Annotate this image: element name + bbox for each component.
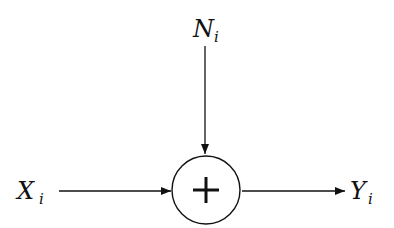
noise-label-subscript: i bbox=[214, 28, 219, 46]
adder-node bbox=[172, 156, 240, 224]
noise-label: N i bbox=[192, 15, 219, 46]
output-label-subscript: i bbox=[368, 190, 373, 208]
noise-label-main: N bbox=[192, 15, 215, 43]
additive-noise-diagram: N i X i Y i bbox=[0, 0, 394, 228]
input-label: X i bbox=[15, 177, 44, 208]
output-label: Y i bbox=[350, 177, 373, 208]
output-label-main: Y bbox=[350, 177, 368, 205]
input-label-main: X bbox=[15, 177, 35, 205]
input-label-subscript: i bbox=[39, 190, 44, 208]
